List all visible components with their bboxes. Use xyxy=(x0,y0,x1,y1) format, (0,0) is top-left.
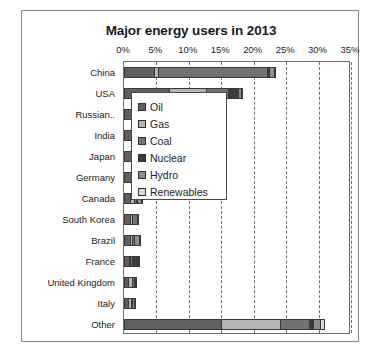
y-axis-label: South Korea xyxy=(62,213,115,224)
x-tick-label: 15% xyxy=(211,44,230,55)
x-axis-tick-labels: 0%5%10%15%20%25%30%35% xyxy=(22,44,360,58)
legend-item-gas[interactable]: Gas xyxy=(138,115,226,132)
chart-title: Major energy users in 2013 xyxy=(22,23,360,38)
bar-segment-coal xyxy=(158,67,266,78)
legend-swatch-icon xyxy=(138,137,146,145)
legend-swatch-icon xyxy=(138,188,146,196)
chart-legend: OilGasCoalNuclearHydroRenewables xyxy=(131,92,227,200)
y-axis-label: Other xyxy=(91,318,115,329)
legend-swatch-icon xyxy=(138,171,146,179)
legend-label: Gas xyxy=(150,118,169,130)
legend-label: Nuclear xyxy=(150,152,186,164)
bar-segment-gas xyxy=(221,319,279,330)
bar-segment-coal xyxy=(280,319,309,330)
legend-label: Coal xyxy=(150,135,172,147)
y-axis-label: United Kingdom xyxy=(47,276,115,287)
bar-segment-renewables xyxy=(274,67,276,78)
y-axis-label: China xyxy=(90,66,115,77)
x-tick-label: 0% xyxy=(116,44,130,55)
y-axis-label: Italy xyxy=(98,297,115,308)
y-axis-label: Germany xyxy=(76,171,115,182)
y-axis-label: Canada xyxy=(82,192,115,203)
bar-segment-renewables xyxy=(320,319,325,330)
legend-item-coal[interactable]: Coal xyxy=(138,132,226,149)
bar-row[interactable] xyxy=(124,319,325,330)
bar-row[interactable] xyxy=(124,277,137,288)
legend-item-oil[interactable]: Oil xyxy=(138,98,226,115)
x-tick-label: 25% xyxy=(276,44,295,55)
x-tick-label: 35% xyxy=(340,44,359,55)
y-axis-category-labels: ChinaUSARussian..IndiaJapanGermanyCanada… xyxy=(22,61,120,334)
y-axis-label: Japan xyxy=(89,150,115,161)
y-axis-label: Russian.. xyxy=(75,108,115,119)
y-axis-label: India xyxy=(94,129,115,140)
legend-label: Hydro xyxy=(150,169,178,181)
bar-segment-renewables xyxy=(241,88,244,99)
x-tick-label: 20% xyxy=(243,44,262,55)
legend-swatch-icon xyxy=(138,120,146,128)
bar-segment-nuclear xyxy=(228,88,238,99)
bar-segment-renewables xyxy=(139,235,141,246)
legend-label: Oil xyxy=(150,101,163,113)
legend-swatch-icon xyxy=(138,103,146,111)
bar-row[interactable] xyxy=(124,256,140,267)
bar-segment-renewables xyxy=(135,277,137,288)
y-axis-label: Brazil xyxy=(91,234,115,245)
bar-row[interactable] xyxy=(124,214,139,225)
bar-segment-renewables xyxy=(134,298,136,309)
bar-row[interactable] xyxy=(124,67,276,78)
y-axis-label: France xyxy=(85,255,115,266)
bar-row[interactable] xyxy=(124,235,141,246)
bar-segment-oil xyxy=(124,67,154,78)
bar-segment-nuclear xyxy=(137,214,139,225)
legend-swatch-icon xyxy=(138,154,146,162)
legend-label: Renewables xyxy=(150,186,208,198)
x-tick-label: 10% xyxy=(178,44,197,55)
legend-item-renewables[interactable]: Renewables xyxy=(138,183,226,200)
chart-frame: Major energy users in 2013 0%5%10%15%20%… xyxy=(21,10,359,342)
x-tick-label: 5% xyxy=(149,44,163,55)
y-axis-label: USA xyxy=(95,87,115,98)
gridline xyxy=(351,62,352,333)
x-tick-label: 30% xyxy=(308,44,327,55)
legend-item-nuclear[interactable]: Nuclear xyxy=(138,149,226,166)
bar-segment-oil xyxy=(124,319,221,330)
bar-row[interactable] xyxy=(124,298,136,309)
legend-item-hydro[interactable]: Hydro xyxy=(138,166,226,183)
bar-segment-renewables xyxy=(138,256,140,267)
